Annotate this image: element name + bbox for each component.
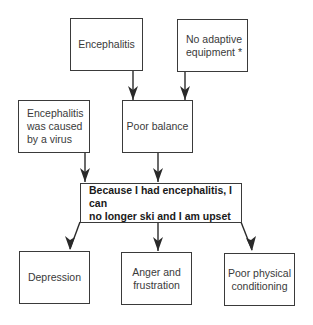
- node-poor-balance: Poor balance: [122, 100, 193, 153]
- node-label: Because I had encephalitis, I can no lon…: [89, 184, 241, 223]
- node-label: Poor balance: [127, 120, 189, 133]
- node-virus-cause: Encephalitis was caused by a virus: [18, 100, 90, 153]
- node-label: No adaptive equipment *: [186, 33, 242, 59]
- node-anger-frustration: Anger and frustration: [121, 252, 192, 305]
- node-depression: Depression: [19, 251, 90, 304]
- node-no-adaptive-equipment: No adaptive equipment *: [177, 19, 248, 72]
- node-core-belief: Because I had encephalitis, I can no lon…: [80, 183, 242, 223]
- node-poor-physical-conditioning: Poor physical conditioning: [224, 253, 295, 306]
- node-label: Poor physical conditioning: [228, 267, 291, 293]
- node-label: Anger and frustration: [132, 266, 180, 292]
- node-label: Encephalitis: [78, 38, 135, 51]
- node-encephalitis: Encephalitis: [70, 18, 143, 71]
- node-label: Encephalitis was caused by a virus: [27, 107, 84, 146]
- node-label: Depression: [28, 271, 81, 284]
